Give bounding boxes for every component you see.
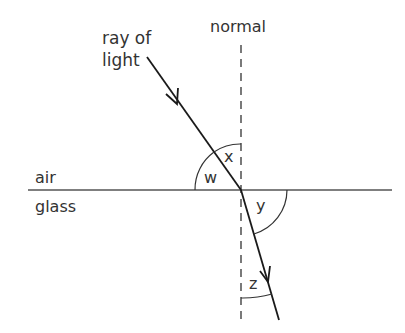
- incident-ray: [147, 57, 241, 190]
- normal-label: normal: [210, 17, 266, 36]
- angle-w-label: w: [204, 168, 217, 187]
- incident-arrow-icon: [166, 88, 178, 104]
- angle-x-label: x: [224, 147, 233, 166]
- ray-of-light-label-line2: light: [102, 50, 140, 70]
- angle-y-label: y: [256, 196, 265, 215]
- glass-label: glass: [35, 197, 76, 216]
- air-label: air: [35, 168, 56, 187]
- angle-z-label: z: [249, 274, 257, 293]
- angle-arc-z: [241, 294, 272, 298]
- refraction-diagram: ray of light normal air glass w x y z: [0, 0, 405, 333]
- ray-of-light-label-line1: ray of: [102, 28, 152, 48]
